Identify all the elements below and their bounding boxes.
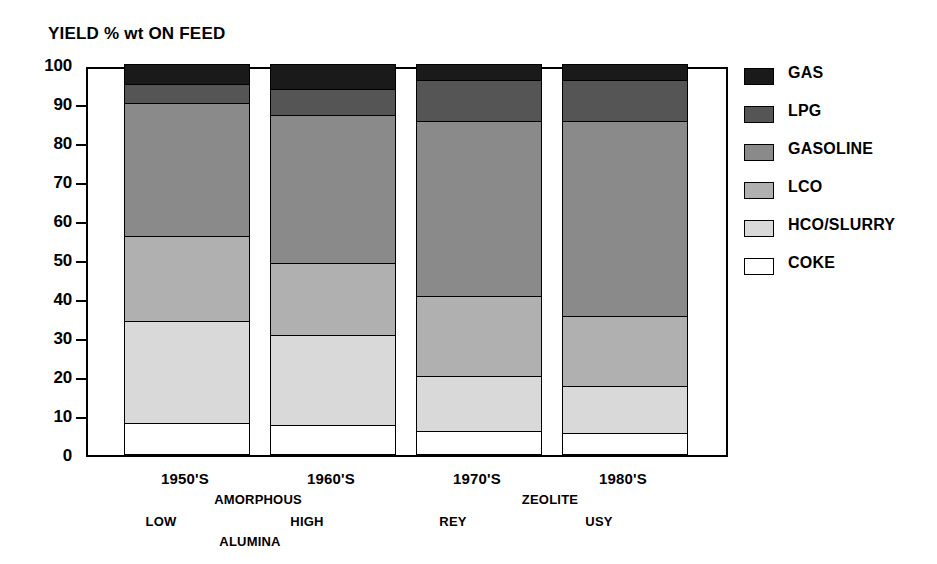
stacked-bar-1960s[interactable]	[270, 69, 396, 455]
y-axis-tick-mark	[76, 300, 86, 302]
bar-segment-coke[interactable]	[124, 422, 250, 455]
chart-legend: GASLPGGASOLINELCOHCO/SLURRYCOKE	[744, 64, 934, 292]
y-axis-tick-mark	[76, 144, 86, 146]
legend-swatch-icon	[744, 220, 774, 237]
x-axis-catalyst-label: USY	[585, 514, 612, 529]
legend-item-label: LPG	[788, 102, 822, 120]
legend-item[interactable]: COKE	[744, 254, 934, 292]
yield-stacked-bar-chart: YIELD % wt ON FEED 100908070605040302010…	[0, 0, 937, 564]
x-axis-decade-label: 1960'S	[307, 470, 355, 487]
bar-segment-lco[interactable]	[270, 262, 396, 336]
bar-segment-gasoline[interactable]	[562, 120, 688, 317]
y-axis-tick-label: 70	[53, 173, 72, 193]
x-axis-decade-label: 1950'S	[161, 470, 209, 487]
bar-segment-gas[interactable]	[562, 64, 688, 81]
legend-item[interactable]: GAS	[744, 64, 934, 102]
bar-segment-gas[interactable]	[270, 64, 396, 91]
y-axis-tick-mark	[76, 261, 86, 263]
legend-item[interactable]: HCO/SLURRY	[744, 216, 934, 254]
y-axis-tick-label: 40	[53, 290, 72, 310]
bar-segment-hco-slurry[interactable]	[124, 321, 250, 424]
bar-segment-gasoline[interactable]	[270, 114, 396, 264]
plot-area	[86, 67, 728, 457]
bar-segment-gas[interactable]	[124, 64, 250, 85]
legend-item[interactable]: LCO	[744, 178, 934, 216]
legend-swatch-icon	[744, 68, 774, 85]
bar-segment-lpg[interactable]	[270, 89, 396, 116]
page-title: YIELD % wt ON FEED	[48, 24, 225, 44]
legend-swatch-icon	[744, 144, 774, 161]
x-axis-decade-label: 1970'S	[453, 470, 501, 487]
y-axis-tick-label: 50	[53, 251, 72, 271]
y-axis-tick-mark	[76, 417, 86, 419]
x-axis-group-label-zeolite: ZEOLITE	[522, 492, 578, 507]
bar-segment-gasoline[interactable]	[416, 120, 542, 297]
legend-item-label: LCO	[788, 178, 822, 196]
legend-item[interactable]: GASOLINE	[744, 140, 934, 178]
x-axis-catalyst-label: HIGH	[290, 514, 323, 529]
bar-segment-hco-slurry[interactable]	[562, 385, 688, 433]
legend-item[interactable]: LPG	[744, 102, 934, 140]
y-axis-tick-mark	[76, 183, 86, 185]
legend-item-label: GASOLINE	[788, 140, 873, 158]
bar-segment-lpg[interactable]	[124, 83, 250, 104]
bar-segment-hco-slurry[interactable]	[416, 376, 542, 432]
y-axis-tick-mark	[76, 105, 86, 107]
legend-item-label: GAS	[788, 64, 823, 82]
legend-swatch-icon	[744, 106, 774, 123]
legend-item-label: HCO/SLURRY	[788, 216, 895, 234]
bar-segment-coke[interactable]	[562, 432, 688, 455]
y-axis-tick-label: 30	[53, 329, 72, 349]
stacked-bar-1970s[interactable]	[416, 69, 542, 455]
bar-segment-hco-slurry[interactable]	[270, 335, 396, 426]
bar-segment-lco[interactable]	[562, 315, 688, 387]
y-axis-tick-label: 90	[53, 95, 72, 115]
legend-swatch-icon	[744, 258, 774, 275]
y-axis-tick-mark	[76, 339, 86, 341]
x-axis-decade-label: 1980'S	[599, 470, 647, 487]
y-axis-tick-mark	[76, 378, 86, 380]
y-axis-tick-label: 0	[63, 446, 72, 466]
bar-segment-lpg[interactable]	[562, 79, 688, 121]
y-axis-tick-label: 80	[53, 134, 72, 154]
y-axis-tick-label: 20	[53, 368, 72, 388]
bar-segment-gas[interactable]	[416, 64, 542, 81]
stacked-bar-1980s[interactable]	[562, 69, 688, 455]
bar-segment-coke[interactable]	[416, 430, 542, 455]
legend-swatch-icon	[744, 182, 774, 199]
x-axis-group-label-alumina: ALUMINA	[219, 534, 280, 549]
legend-item-label: COKE	[788, 254, 835, 272]
y-axis-tick-mark	[76, 222, 86, 224]
bar-segment-gasoline[interactable]	[124, 103, 250, 237]
x-axis-group-label-amorphous: AMORPHOUS	[214, 492, 302, 507]
bar-segment-coke[interactable]	[270, 424, 396, 455]
y-axis-tick-label: 10	[53, 407, 72, 427]
y-axis-tick-label: 60	[53, 212, 72, 232]
bar-segment-lpg[interactable]	[416, 79, 542, 121]
x-axis-catalyst-label: REY	[439, 514, 466, 529]
bar-segment-lco[interactable]	[416, 296, 542, 377]
y-axis-tick-label: 100	[44, 56, 72, 76]
stacked-bar-1950s[interactable]	[124, 69, 250, 455]
y-axis: 1009080706050403020100	[0, 67, 86, 457]
bar-segment-lco[interactable]	[124, 235, 250, 322]
x-axis-catalyst-label: LOW	[146, 514, 177, 529]
